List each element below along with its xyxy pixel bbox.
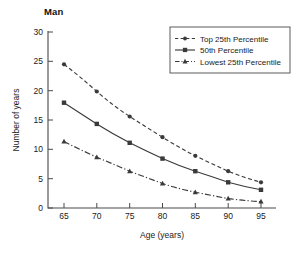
legend-label-lowest: Lowest 25th Percentile (200, 58, 281, 67)
x-tick-label: 90 (223, 211, 233, 221)
x-tick-label: 65 (59, 211, 69, 221)
legend-swatch-marker-square-icon (183, 48, 187, 52)
y-tick-label: 25 (34, 56, 44, 66)
chart-figure: Man 0 5 10 15 20 25 30 (0, 0, 298, 253)
x-tick-label: 80 (158, 211, 168, 221)
x-tick-label: 95 (256, 211, 266, 221)
legend-swatch-marker-circle-icon (183, 37, 187, 41)
series-markers-median (62, 101, 263, 193)
y-tick-label: 30 (34, 27, 44, 37)
x-tickmarks (64, 203, 261, 208)
series-line-median (64, 103, 261, 190)
y-tick-label: 15 (34, 115, 44, 125)
x-tick-label: 75 (125, 211, 135, 221)
x-axis-title: Age (years) (140, 230, 184, 240)
y-tick-label: 0 (38, 203, 43, 213)
x-tick-label: 85 (191, 211, 201, 221)
series-line-lowest (64, 142, 261, 202)
series-markers-lowest (61, 139, 263, 204)
series-50th-percentile (62, 101, 263, 193)
y-tick-label: 10 (34, 144, 44, 154)
y-tick-label: 5 (38, 174, 43, 184)
y-tickmarks (48, 32, 53, 208)
x-tick-labels: 65 70 75 80 85 90 95 (59, 211, 266, 221)
y-axis-title: Number of years (11, 89, 21, 152)
series-line-top (64, 64, 261, 182)
legend-label-top: Top 25th Percentile (200, 35, 269, 44)
legend-label-median: 50th Percentile (200, 46, 254, 55)
x-tick-label: 70 (92, 211, 102, 221)
series-lowest-25th-percentile (61, 139, 263, 204)
y-tick-labels: 0 5 10 15 20 25 30 (34, 27, 44, 213)
plot-area: 0 5 10 15 20 25 30 65 70 75 80 85 90 95 (0, 0, 298, 253)
y-tick-label: 20 (34, 86, 44, 96)
series-top-25th-percentile (62, 62, 263, 184)
legend: Top 25th Percentile 50th Percentile Lowe… (170, 27, 290, 73)
series-markers-top (62, 62, 263, 184)
